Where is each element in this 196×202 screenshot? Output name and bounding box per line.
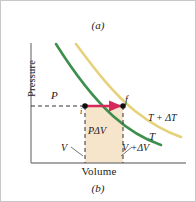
volume-final-label: V +ΔV (122, 142, 149, 153)
volume-initial-leader-line (71, 147, 83, 156)
final-state-label: f (125, 94, 128, 105)
initial-state-point-marker (82, 103, 88, 109)
x-axis-label: Volume (1, 165, 196, 177)
isotherm-upper-leader-line (168, 131, 179, 137)
y-axis-label: Pressure (26, 60, 37, 97)
initial-state-label: i (80, 107, 82, 116)
pv-diagram-figure: (a) Pressure Volume (0, 0, 196, 202)
work-area-label: PΔV (88, 125, 106, 136)
isotherm-upper-label: T + ΔT (148, 112, 177, 123)
volume-initial-label: V (61, 142, 67, 153)
pressure-level-label: P (51, 89, 58, 101)
panel-label-b: (b) (1, 182, 195, 194)
isotherm-lower-label: T (149, 130, 155, 142)
